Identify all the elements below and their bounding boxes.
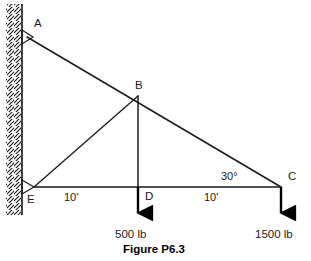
wall-hatching — [6, 4, 22, 215]
figure-caption: Figure P6.3 — [123, 244, 185, 256]
member-E-B — [34, 96, 138, 187]
node-label-B: B — [135, 80, 143, 92]
node-label-A: A — [34, 18, 42, 30]
node-label-C: C — [288, 171, 296, 183]
member-A-C — [27, 37, 281, 187]
pin-support-E — [22, 180, 34, 194]
dimension-label-DC: 10' — [204, 192, 218, 203]
figure-container: A B C D E 10' 10' 30° 500 lb 1500 lb Fig… — [0, 0, 311, 261]
node-label-E: E — [27, 194, 35, 206]
dimension-label-ED: 10' — [64, 192, 78, 203]
load-label-C: 1500 lb — [255, 229, 293, 241]
angle-label-C: 30° — [221, 171, 238, 182]
load-label-D: 500 lb — [115, 229, 146, 241]
truss-diagram — [0, 0, 311, 261]
node-label-D: D — [145, 191, 153, 203]
